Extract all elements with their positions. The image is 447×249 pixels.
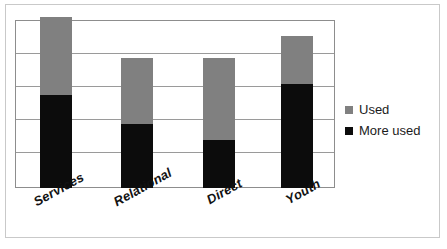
legend-item-used[interactable]: Used	[345, 99, 437, 120]
bar-group-direct[interactable]	[203, 58, 235, 188]
chart-legend: Used More used	[345, 99, 437, 141]
bar-group-youth[interactable]	[281, 36, 313, 188]
bar-series-container	[15, 0, 335, 249]
bar-segment-more-used[interactable]	[281, 84, 313, 188]
legend-item-more-used[interactable]: More used	[345, 120, 437, 141]
bar-segment-used[interactable]	[121, 58, 153, 124]
bar-segment-used[interactable]	[281, 36, 313, 84]
square-swatch-black-icon	[345, 127, 353, 135]
bar-segment-used[interactable]	[40, 17, 72, 95]
bar-group-services[interactable]	[40, 17, 72, 188]
legend-label: Used	[359, 103, 389, 116]
chart-figure: Services Relational Direct Youth Used Mo…	[0, 0, 447, 249]
bar-segment-more-used[interactable]	[40, 95, 72, 188]
legend-label: More used	[359, 124, 420, 137]
bar-group-relational[interactable]	[121, 58, 153, 188]
bar-segment-used[interactable]	[203, 58, 235, 140]
square-swatch-gray-icon	[345, 106, 353, 114]
